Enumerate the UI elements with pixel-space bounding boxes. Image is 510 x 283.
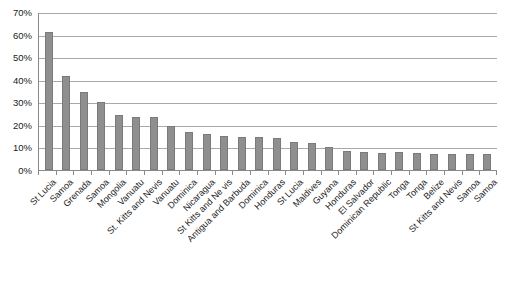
bar[interactable] xyxy=(203,134,211,170)
x-axis-labels: St LuciaSamoaGrenadaSamoaMongoliaVanuatu… xyxy=(38,177,497,283)
bar-slot xyxy=(478,13,496,170)
bar[interactable] xyxy=(448,154,456,170)
bar[interactable] xyxy=(325,147,333,170)
bar-slot xyxy=(128,13,146,170)
bar-slot xyxy=(303,13,321,170)
bar[interactable] xyxy=(220,136,228,170)
x-axis-tick xyxy=(285,171,303,176)
x-axis-tick xyxy=(338,171,356,176)
x-axis-tick xyxy=(179,171,197,176)
plot-area xyxy=(38,13,497,171)
bar-chart: 70%60%50%40%30%20%10%0% St LuciaSamoaGre… xyxy=(0,0,510,283)
bar-slot xyxy=(145,13,163,170)
bar[interactable] xyxy=(290,142,298,170)
bar-slot xyxy=(461,13,479,170)
x-axis-tick xyxy=(73,171,91,176)
x-axis-tick xyxy=(444,171,462,176)
bar-slot xyxy=(58,13,76,170)
bar-slot xyxy=(391,13,409,170)
x-axis-tick xyxy=(232,171,250,176)
bar[interactable] xyxy=(132,117,140,170)
x-axis-tick xyxy=(373,171,391,176)
bar-slot xyxy=(268,13,286,170)
bar[interactable] xyxy=(378,153,386,170)
x-axis-tick xyxy=(56,171,74,176)
bar-series xyxy=(39,13,497,170)
bar[interactable] xyxy=(97,102,105,170)
bar[interactable] xyxy=(167,126,175,170)
y-axis-tick-label: 60% xyxy=(13,31,32,41)
x-axis-ticks xyxy=(38,171,497,176)
bar-slot xyxy=(233,13,251,170)
x-axis-tick xyxy=(109,171,127,176)
bar-slot xyxy=(180,13,198,170)
x-axis-tick xyxy=(409,171,427,176)
bar[interactable] xyxy=(483,154,491,170)
bar[interactable] xyxy=(238,137,246,170)
x-axis-tick xyxy=(426,171,444,176)
chart-plot-wrapper: 70%60%50%40%30%20%10%0% St LuciaSamoaGre… xyxy=(0,0,510,283)
bar-slot xyxy=(75,13,93,170)
x-axis-tick xyxy=(215,171,233,176)
x-axis-tick xyxy=(144,171,162,176)
x-axis-tick xyxy=(391,171,409,176)
x-axis-tick xyxy=(91,171,109,176)
y-axis-tick-label: 50% xyxy=(13,53,32,63)
bar[interactable] xyxy=(62,76,70,170)
bar-slot xyxy=(250,13,268,170)
bar-slot xyxy=(93,13,111,170)
y-axis-tick-label: 20% xyxy=(13,121,32,131)
y-axis-tick-label: 0% xyxy=(18,166,32,176)
y-axis-tick-label: 70% xyxy=(13,8,32,18)
x-axis-tick xyxy=(303,171,321,176)
y-axis-tick-label: 30% xyxy=(13,98,32,108)
x-axis-tick xyxy=(197,171,215,176)
bar[interactable] xyxy=(115,115,123,170)
x-axis-tick xyxy=(479,171,497,176)
x-axis-tick xyxy=(356,171,374,176)
bar-slot xyxy=(426,13,444,170)
y-axis-labels: 70%60%50%40%30%20%10%0% xyxy=(0,0,34,283)
bar-slot xyxy=(373,13,391,170)
x-axis-tick xyxy=(321,171,339,176)
bar-slot xyxy=(110,13,128,170)
bar[interactable] xyxy=(413,153,421,170)
bar[interactable] xyxy=(45,32,53,170)
x-axis-tick xyxy=(38,171,56,176)
bar-slot xyxy=(215,13,233,170)
x-axis-tick xyxy=(250,171,268,176)
bar-slot xyxy=(321,13,339,170)
bar[interactable] xyxy=(430,154,438,170)
bar[interactable] xyxy=(308,143,316,170)
bar-slot xyxy=(356,13,374,170)
bar[interactable] xyxy=(255,137,263,170)
bar-slot xyxy=(40,13,58,170)
bar-slot xyxy=(285,13,303,170)
x-axis-tick xyxy=(268,171,286,176)
x-axis-tick xyxy=(462,171,480,176)
bar[interactable] xyxy=(80,92,88,170)
bar[interactable] xyxy=(273,138,281,170)
bar[interactable] xyxy=(466,154,474,170)
bar[interactable] xyxy=(360,152,368,170)
x-axis-tick xyxy=(126,171,144,176)
bar-slot xyxy=(198,13,216,170)
bar-slot xyxy=(408,13,426,170)
bar[interactable] xyxy=(395,152,403,170)
bar-slot xyxy=(338,13,356,170)
bar-slot xyxy=(443,13,461,170)
y-axis-tick-label: 10% xyxy=(13,143,32,153)
bar[interactable] xyxy=(150,117,158,170)
bar-slot xyxy=(163,13,181,170)
bar[interactable] xyxy=(343,151,351,170)
bar[interactable] xyxy=(185,132,193,170)
x-axis-tick xyxy=(162,171,180,176)
y-axis-tick-label: 40% xyxy=(13,76,32,86)
